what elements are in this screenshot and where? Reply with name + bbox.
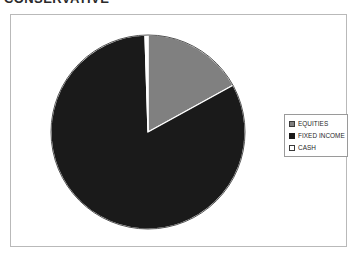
chart-legend: EQUITIES FIXED INCOME CASH [284, 114, 348, 157]
legend-item-cash[interactable]: CASH [288, 142, 344, 153]
legend-label-cash: CASH [298, 144, 316, 151]
legend-item-equities[interactable]: EQUITIES [288, 118, 344, 129]
legend-swatch-equities [289, 121, 295, 127]
legend-item-fixed-income[interactable]: FIXED INCOME [288, 130, 344, 141]
legend-swatch-fixed-income [289, 133, 295, 139]
legend-swatch-cash [289, 145, 295, 151]
legend-label-fixed-income: FIXED INCOME [298, 132, 345, 139]
legend-label-equities: EQUITIES [298, 120, 328, 127]
pie-slice-group [51, 35, 245, 229]
